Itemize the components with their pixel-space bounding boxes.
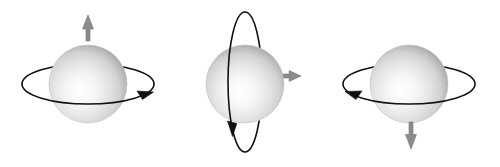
sphere-1 xyxy=(49,45,127,123)
spin-diagram-svg xyxy=(0,0,500,167)
sphere-3 xyxy=(370,45,448,123)
sphere-2 xyxy=(206,45,284,123)
spin-diagram-canvas xyxy=(0,0,500,167)
